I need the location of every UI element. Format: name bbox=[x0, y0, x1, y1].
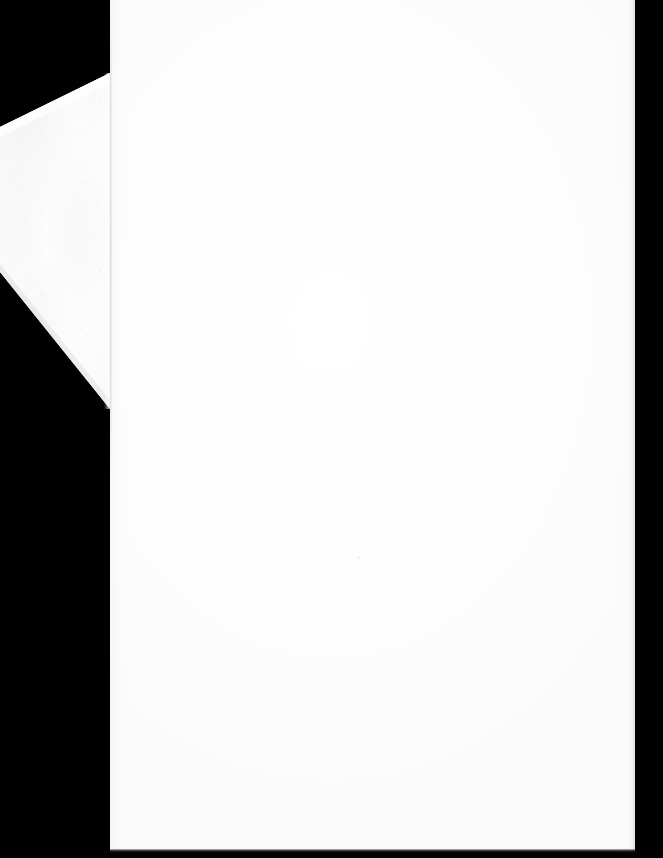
dust-speck bbox=[357, 556, 360, 559]
document-page[interactable] bbox=[110, 0, 635, 853]
scan-canvas bbox=[0, 0, 663, 858]
fold-inner-edge bbox=[104, 73, 111, 409]
page-right-edge-shadow bbox=[629, 0, 635, 853]
page-bottom-edge-shadow bbox=[110, 849, 635, 854]
